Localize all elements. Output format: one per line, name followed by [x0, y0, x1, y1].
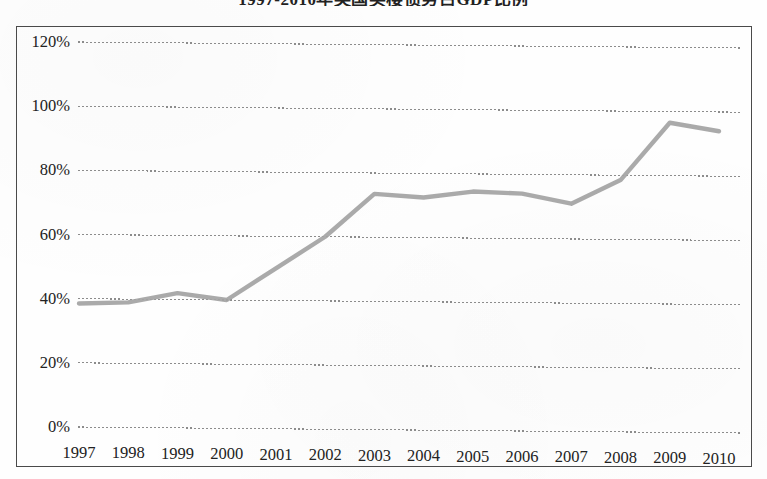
- y-tick-label-100%: 100%: [14, 98, 70, 115]
- x-tick-label-2009: 2009: [644, 450, 696, 467]
- gridline-80%: [78, 170, 740, 176]
- gridline-60%: [78, 235, 740, 241]
- gridline-0%: [78, 427, 740, 433]
- x-tick-label-2001: 2001: [250, 447, 302, 464]
- y-tick-label-120%: 120%: [14, 34, 70, 51]
- x-tick-label-1999: 1999: [151, 446, 203, 463]
- x-tick-label-1997: 1997: [53, 445, 105, 462]
- x-tick-label-1998: 1998: [102, 445, 154, 462]
- x-tick-label-2006: 2006: [496, 449, 548, 466]
- data-series-line: [79, 123, 719, 304]
- x-tick-label-2004: 2004: [398, 448, 450, 465]
- chart-title: 1997-2010年英国买楼债务占GDP比例: [0, 0, 767, 6]
- gridline-100%: [78, 106, 740, 112]
- y-tick-label-60%: 60%: [14, 226, 70, 243]
- x-tick-label-2002: 2002: [299, 447, 351, 464]
- gridline-40%: [78, 299, 740, 305]
- y-tick-label-20%: 20%: [14, 355, 70, 372]
- x-tick-label-2007: 2007: [545, 449, 597, 466]
- x-tick-label-2010: 2010: [693, 451, 745, 468]
- y-tick-label-40%: 40%: [14, 290, 70, 307]
- x-tick-label-2003: 2003: [348, 448, 400, 465]
- line-chart-graphic: [16, 26, 752, 467]
- x-tick-label-2005: 2005: [447, 449, 499, 466]
- gridline-120%: [78, 42, 740, 48]
- chart-plot-area: 0%20%40%60%80%100%120% 19971998199920002…: [16, 26, 752, 467]
- x-tick-label-2000: 2000: [201, 446, 253, 463]
- x-tick-label-2008: 2008: [595, 450, 647, 467]
- y-tick-label-80%: 80%: [14, 162, 70, 179]
- gridline-20%: [78, 363, 740, 369]
- y-tick-label-0%: 0%: [14, 419, 70, 436]
